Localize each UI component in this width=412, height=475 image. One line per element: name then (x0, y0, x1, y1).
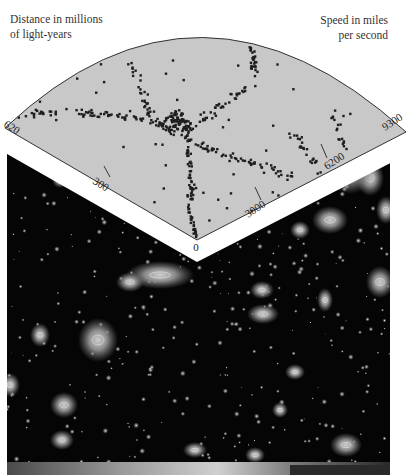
simulation-dot (162, 346, 166, 350)
simulation-dot (323, 316, 326, 319)
simulation-dot (40, 258, 44, 262)
distance-caption-line2: of light-years (10, 27, 103, 42)
galaxy-point (188, 204, 190, 206)
galaxy-point (299, 138, 301, 140)
simulation-dot (222, 437, 225, 440)
galaxy-point (188, 184, 190, 186)
simulation-dot (309, 322, 311, 324)
simulation-dot (179, 253, 182, 256)
galaxy-point (300, 146, 302, 148)
galaxy-point (139, 88, 141, 90)
galaxy-point (169, 115, 171, 117)
distance-axis-caption: Distance in millions of light-years (10, 12, 103, 42)
simulation-dot (54, 246, 60, 252)
galaxy-point (206, 145, 208, 147)
simulation-dot (18, 335, 22, 339)
simulation-dot (266, 229, 271, 234)
galaxy-point (161, 144, 163, 146)
simulation-dot (51, 349, 54, 352)
simulation-dot (25, 418, 30, 423)
galaxy-point (172, 125, 174, 127)
simulation-dot (141, 397, 146, 402)
simulation-dot (234, 323, 237, 326)
galaxy-point (140, 92, 142, 94)
galaxy-point (203, 111, 205, 113)
galaxy-point (343, 145, 345, 147)
galaxy-point (182, 128, 184, 130)
galaxy-point (220, 106, 222, 108)
simulation-dot (358, 330, 362, 334)
simulation-dot (380, 332, 384, 336)
simulation-dot (102, 428, 108, 434)
simulation-dot (373, 224, 379, 230)
galaxy-point (276, 63, 278, 65)
simulation-dot (283, 428, 286, 431)
simulation-dot (361, 366, 365, 370)
simulation-dot (307, 297, 310, 300)
galaxy-point (317, 172, 319, 174)
galaxy-point (261, 166, 263, 168)
galaxy-point (254, 85, 256, 87)
simulation-dot (150, 365, 155, 370)
galaxy-point (244, 90, 246, 92)
galaxy-point (345, 148, 347, 150)
galaxy-point (170, 112, 172, 114)
simulation-dot (362, 409, 366, 413)
simulation-dot (295, 293, 299, 297)
simulation-dot (356, 238, 362, 244)
simulation-dot (46, 252, 50, 256)
galaxy-point (235, 98, 237, 100)
simulation-dot (181, 412, 186, 417)
galaxy-point (173, 130, 175, 132)
galaxy-point (211, 149, 213, 151)
galaxy-point (229, 93, 231, 95)
simulation-dot (25, 408, 29, 412)
galaxy-point (139, 79, 141, 81)
simulation-dot (118, 250, 122, 254)
simulation-cluster (247, 304, 279, 324)
galaxy-point (169, 126, 171, 128)
simulation-dot (312, 397, 314, 399)
simulation-dot (208, 285, 212, 289)
galaxy-point (42, 113, 44, 115)
simulation-dot (106, 375, 112, 381)
simulation-dot (335, 263, 337, 265)
galaxy-point (176, 120, 178, 122)
galaxy-point (202, 192, 204, 194)
galaxy-point (224, 103, 226, 105)
simulation-cluster (50, 392, 78, 418)
simulation-cluster (30, 323, 50, 347)
galaxy-point (201, 143, 203, 145)
galaxy-point (186, 134, 188, 136)
simulation-dot (221, 270, 224, 273)
galaxy-point (65, 108, 67, 110)
galaxy-point (333, 119, 335, 121)
simulation-dot (56, 302, 60, 306)
simulation-dot (211, 276, 213, 278)
galaxy-point (274, 166, 276, 168)
simulation-dot (321, 399, 327, 405)
galaxy-point (75, 109, 77, 111)
galaxy-point (188, 162, 190, 164)
simulation-dot (272, 252, 275, 255)
galaxy-point (222, 154, 224, 156)
simulation-dot (230, 322, 235, 327)
simulation-dot (53, 344, 57, 348)
simulation-dot (228, 277, 232, 281)
galaxy-point (193, 221, 195, 223)
galaxy-point (277, 194, 279, 196)
simulation-dot (123, 222, 125, 224)
simulation-dot (35, 354, 39, 358)
simulation-dot (292, 329, 294, 331)
galaxy-point (163, 187, 165, 189)
galaxy-point (250, 65, 252, 67)
galaxy-point (342, 143, 344, 145)
simulation-dot (74, 319, 79, 324)
simulation-dot (383, 319, 387, 323)
galaxy-point (156, 118, 158, 120)
galaxy-point (339, 123, 341, 125)
simulation-cluster (330, 433, 362, 457)
galaxy-point (253, 62, 255, 64)
simulation-dot (269, 345, 273, 349)
galaxy-point (190, 129, 192, 131)
